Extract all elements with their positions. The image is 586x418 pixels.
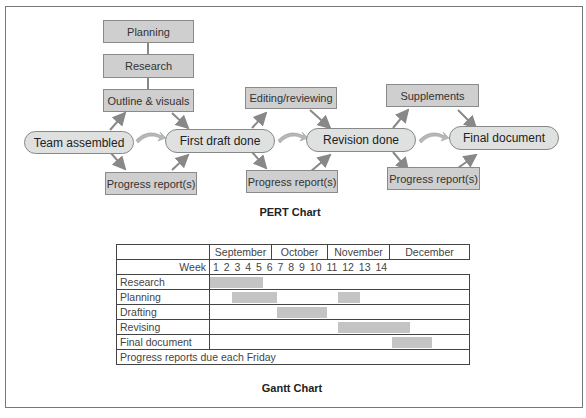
task-outline-visuals: Outline & visuals — [103, 89, 194, 112]
task-progress-report-3: Progress report(s) — [387, 167, 480, 190]
row-bars-revising — [210, 320, 470, 335]
week-label: Week — [117, 260, 210, 275]
month-october: October — [272, 245, 328, 260]
pert-chart-caption: PERT Chart — [250, 206, 330, 218]
milestone-first-draft-done: First draft done — [165, 129, 275, 153]
month-november: November — [328, 245, 390, 260]
gantt-bar — [210, 277, 263, 288]
corner-cell — [117, 245, 210, 260]
row-label-drafting: Drafting — [117, 305, 210, 320]
row-bars-planning — [210, 290, 470, 305]
month-december: December — [390, 245, 470, 260]
task-planning: Planning — [103, 20, 194, 43]
task-progress-report-1: Progress report(s) — [105, 172, 197, 195]
row-bars-final-document — [210, 335, 470, 350]
task-editing-reviewing: Editing/reviewing — [245, 87, 337, 109]
gantt-bar — [338, 292, 360, 303]
task-progress-report-2: Progress report(s) — [246, 170, 338, 193]
gantt-table: September October November December Week… — [116, 244, 470, 365]
row-label-final-document: Final document — [117, 335, 210, 350]
gantt-bar — [232, 292, 277, 303]
week-numbers: 1 2 3 4 5 6 7 8 9 10 11 12 13 14 — [210, 260, 470, 275]
milestone-revision-done: Revision done — [306, 128, 416, 152]
month-september: September — [210, 245, 272, 260]
row-label-research: Research — [117, 275, 210, 290]
row-bars-drafting — [210, 305, 470, 320]
task-supplements: Supplements — [386, 84, 479, 107]
gantt-footer: Progress reports due each Friday — [117, 350, 470, 365]
milestone-team-assembled: Team assembled — [24, 131, 134, 154]
gantt-bar — [277, 307, 327, 318]
gantt-bar — [392, 337, 432, 348]
row-label-revising: Revising — [117, 320, 210, 335]
row-label-planning: Planning — [117, 290, 210, 305]
row-bars-research — [210, 275, 470, 290]
gantt-chart-caption: Gantt Chart — [250, 382, 334, 394]
task-research: Research — [103, 54, 194, 78]
milestone-final-document: Final document — [449, 126, 559, 150]
gantt-bar — [338, 322, 410, 333]
